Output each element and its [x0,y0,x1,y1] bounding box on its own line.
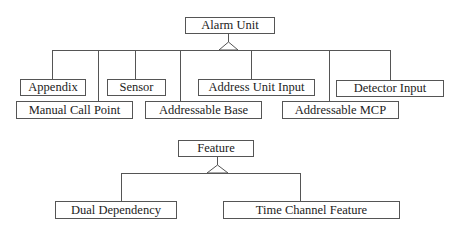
node-manual-call-point: Manual Call Point [16,101,133,119]
node-sensor: Sensor [107,79,166,96]
node-time-channel-feature: Time Channel Feature [223,201,400,219]
inheritance-triangle-icon [219,42,238,50]
node-appendix: Appendix [20,79,86,96]
node-detector-input: Detector Input [336,80,444,97]
node-address-unit-input: Address Unit Input [198,79,315,96]
node-addressable-mcp: Addressable MCP [282,101,399,119]
diagram-canvas: Alarm Unit Appendix Sensor Address Unit … [0,0,455,231]
node-addressable-base: Addressable Base [145,101,262,119]
node-feature: Feature [178,140,254,157]
inheritance-triangle-icon [207,165,228,173]
node-alarm-unit: Alarm Unit [185,17,275,34]
node-dual-dependency: Dual Dependency [55,201,177,219]
